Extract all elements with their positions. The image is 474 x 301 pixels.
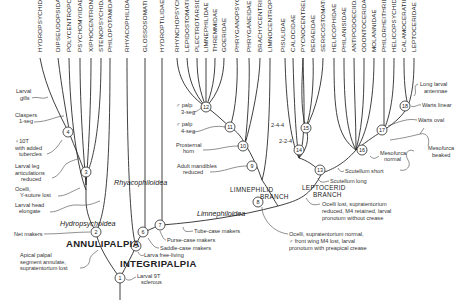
svg-text:15: 15: [303, 125, 309, 131]
taxon-label: PISULIDAE: [279, 18, 286, 52]
svg-text:6: 6: [142, 229, 145, 235]
annotations: Larval gills Claspers 1-seg ♀10T with ad…: [14, 81, 455, 285]
svg-text:Larval: Larval: [16, 88, 31, 94]
taxon-label: PLECTROTARSIDAE: [193, 0, 200, 52]
integripalpia-label: INTEGRIPALPIA: [120, 258, 197, 269]
taxon-label: POLYCENTROPODIDAE: [65, 0, 72, 52]
svg-text:horn: horn: [183, 148, 194, 154]
taxon-label: BRACHYCENTRIDAE: [256, 0, 263, 52]
taxon-label: ANTIPODOECIIDAE: [350, 0, 357, 52]
svg-text:♂ palp: ♂ palp: [176, 102, 192, 108]
taxon-label: RHYNCHOPSYCHIDAE: [173, 0, 180, 52]
taxon-label: LEPTOCERIDAE: [410, 2, 417, 52]
svg-text:Ocelli lost, supratentorium: Ocelli lost, supratentorium: [322, 201, 387, 207]
svg-text:Larval leg: Larval leg: [15, 163, 39, 169]
svg-text:1: 1: [119, 275, 122, 281]
taxon-label: PHRYGANEIDAE: [245, 1, 252, 52]
svg-text:Tube-case makers: Tube-case makers: [194, 228, 240, 234]
limnephiloidea-label: Limnephiloidea: [197, 209, 245, 218]
node-16: 16: [357, 145, 367, 155]
svg-text:Warts oval: Warts oval: [418, 117, 444, 123]
node-7: 7: [155, 220, 165, 230]
svg-text:10: 10: [240, 143, 246, 149]
svg-text:1-seg: 1-seg: [19, 118, 33, 124]
node-3: 3: [81, 167, 91, 177]
taxon-label: DIPSEUDOPSIDAE: [54, 0, 61, 52]
taxon-label: SERICOSTOMATIDAE: [319, 0, 326, 52]
svg-text:elongate: elongate: [19, 208, 40, 214]
svg-text:14: 14: [296, 147, 302, 153]
taxon-label: HYDROPTILIDAE: [158, 0, 165, 52]
rhyacophiloidea-label: Rhyacophiloidea: [114, 178, 167, 187]
svg-text:Ocelli, supratentorium normal,: Ocelli, supratentorium normal,: [289, 231, 364, 237]
svg-text:7: 7: [159, 222, 162, 228]
taxon-label: THREMMIDAE: [211, 8, 218, 52]
svg-text:2: 2: [95, 229, 98, 235]
taxon-label: STENOPSYCHIDAE: [97, 0, 104, 52]
svg-text:tubercles: tubercles: [19, 151, 42, 157]
svg-text:11: 11: [227, 124, 233, 130]
node-15: 15: [301, 123, 311, 133]
svg-text:Saddle-case makers: Saddle-case makers: [160, 245, 211, 251]
taxon-labels: HYDROPSYCHIDAE DIPSEUDOPSIDAE POLYCENTRO…: [36, 0, 417, 52]
node-18: 18: [400, 101, 410, 111]
taxon-label: PYCNOCENTRELLIDAE: [299, 0, 306, 52]
svg-text:♀10T: ♀10T: [15, 138, 29, 144]
taxon-label: XIPHOCENTRONIDAE: [87, 0, 94, 52]
svg-text:reduced: reduced: [183, 169, 203, 175]
svg-text:pronotum with preapical crease: pronotum with preapical crease: [289, 245, 367, 251]
limnephilid-branch-label-2: BRANCH: [260, 193, 289, 200]
svg-text:12: 12: [203, 104, 209, 110]
svg-text:normal: normal: [384, 156, 401, 162]
svg-text:reduced, M4 retained, larval: reduced, M4 retained, larval: [322, 208, 391, 214]
svg-text:9: 9: [251, 163, 254, 169]
svg-text:sclerous: sclerous: [141, 279, 162, 285]
svg-text:reduced: reduced: [21, 176, 41, 182]
taxon-label: RHYACOPHILIDAE: [123, 0, 130, 52]
svg-text:antennae: antennae: [424, 88, 447, 94]
taxon-label: CALAMOCERATIDAE: [400, 0, 407, 52]
taxon-label: PHILORHEITHRIDAE: [380, 0, 387, 52]
svg-text:Mesofurca: Mesofurca: [428, 145, 455, 151]
taxon-label: HELICOPHIDAE: [330, 4, 337, 52]
node-2: 2: [91, 227, 101, 237]
svg-text:Y-suture lost: Y-suture lost: [20, 192, 51, 198]
leptocerid-branch-label-2: BRANCH: [313, 191, 342, 198]
taxon-label: GLOSSOSOMATIDAE: [141, 0, 148, 52]
svg-text:13: 13: [317, 167, 323, 173]
svg-text:Warts linear: Warts linear: [422, 102, 452, 108]
taxon-label: PSYCHOMYIIDAE: [76, 0, 83, 52]
svg-text:supratentorium lost: supratentorium lost: [20, 265, 68, 271]
node-1: 1: [115, 273, 125, 283]
svg-text:16: 16: [359, 147, 365, 153]
svg-text:3-seg: 3-seg: [181, 109, 195, 115]
svg-text:Long larval: Long larval: [420, 81, 447, 87]
taxon-label: LEPIDOSTOMATIDAE: [183, 0, 190, 52]
svg-text:♂ palp: ♂ palp: [176, 121, 192, 127]
taxon-label: HYDROPSYCHIDAE: [36, 0, 43, 52]
node-6: 6: [138, 227, 148, 237]
svg-text:gills: gills: [20, 95, 30, 101]
leptocerid-branch-label: LEPTOCERID: [302, 184, 346, 191]
group-labels: ANNULIPALPIA INTEGRIPALPIA Hydropsychoid…: [60, 178, 346, 269]
svg-text:4: 4: [67, 129, 70, 135]
svg-text:Scutellum short: Scutellum short: [345, 168, 384, 174]
svg-text:Scutellum long: Scutellum long: [330, 178, 367, 184]
svg-text:Net makers: Net makers: [14, 231, 43, 237]
svg-text:pronotum without crease: pronotum without crease: [322, 215, 383, 221]
annulipalpia-label: ANNULIPALPIA: [66, 238, 140, 249]
taxon-label: LIMNEPHILIDAE: [202, 2, 209, 52]
svg-text:2-2-4: 2-2-4: [279, 138, 292, 144]
svg-text:3: 3: [85, 169, 88, 175]
svg-text:Apical palpal: Apical palpal: [20, 252, 52, 258]
taxon-label: CALOCIDAE: [289, 14, 296, 52]
node-12: 12: [201, 102, 211, 112]
taxon-label: HELICOPSYCHIDAE: [390, 0, 397, 52]
svg-text:♂ front wing M4 lost, larval: ♂ front wing M4 lost, larval: [289, 238, 355, 244]
taxon-label: ODONTOCERIDAE: [360, 0, 367, 52]
taxon-label: BERAEIDAE: [309, 15, 316, 52]
taxon-label: MOLANNIDAE: [370, 9, 377, 52]
node-14: 14: [294, 145, 304, 155]
taxon-label: PHRYGANOPSYCHIDAE: [233, 0, 240, 52]
svg-text:Purse-case makers: Purse-case makers: [167, 237, 215, 243]
